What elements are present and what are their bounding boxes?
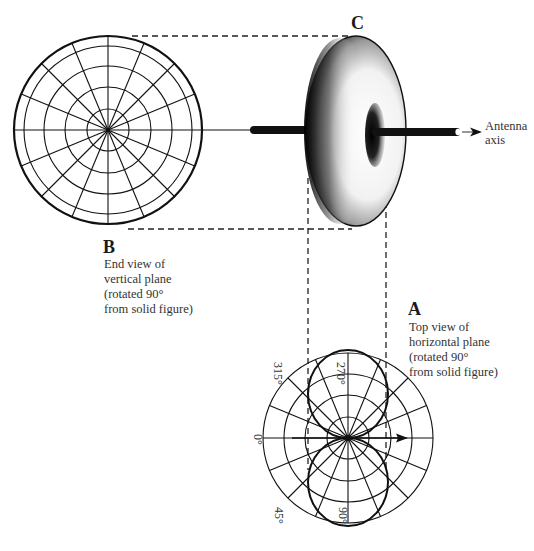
angle-label-315: 315° <box>270 362 285 385</box>
view-b-caption: End view of vertical plane (rotated 90° … <box>104 257 193 317</box>
angle-label-0: 0° <box>250 434 265 445</box>
view-a-label: A <box>408 300 421 318</box>
view-b-label: B <box>103 238 115 256</box>
antenna-axis-label: Antenna axis <box>485 119 527 147</box>
antenna-radiation-diagram <box>0 0 534 551</box>
view-a-caption: Top view of horizontal plane (rotated 90… <box>409 320 498 380</box>
view-c-label: C <box>351 14 364 32</box>
antenna-rod-right <box>372 128 460 136</box>
view-b-polar-grid <box>14 36 202 224</box>
angle-label-90: 90° <box>335 507 350 524</box>
angle-label-45: 45° <box>271 507 286 524</box>
angle-label-270: 270° <box>333 362 348 385</box>
